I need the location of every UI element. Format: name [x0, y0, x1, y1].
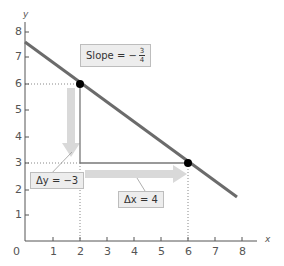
- y-tick-label: 1: [15, 208, 22, 221]
- y-tick-label: 3: [15, 156, 22, 169]
- slope-fraction: 34: [139, 47, 145, 64]
- x-tick-label: 7: [212, 245, 219, 258]
- x-tick-label: 3: [104, 245, 111, 258]
- origin-label: 0: [13, 245, 20, 258]
- x-tick-label: 2: [77, 245, 84, 258]
- x-tick-label: 6: [185, 245, 192, 258]
- y-axis-label: y: [23, 9, 28, 19]
- slope-annotation: Slope = −34: [80, 44, 151, 67]
- y-tick-label: 4: [15, 130, 22, 143]
- x-axis-label: x: [265, 234, 270, 244]
- x-tick-label: 8: [239, 245, 246, 258]
- x-tick-label: 1: [50, 245, 57, 258]
- delta-y-annotation: Δy = −3: [30, 172, 84, 189]
- x-tick-label: 5: [158, 245, 165, 258]
- x-ticks: [53, 237, 242, 241]
- point-2-6: [76, 80, 84, 88]
- delta-y-arrow: [62, 88, 80, 157]
- y-tick-label: 7: [15, 50, 22, 63]
- x-tick-label: 4: [131, 245, 138, 258]
- delta-x-leader: [137, 178, 145, 191]
- point-6-3: [184, 159, 192, 167]
- y-tick-label: 5: [15, 103, 22, 116]
- delta-x-arrow: [85, 165, 187, 183]
- y-tick-label: 6: [15, 77, 22, 90]
- slope-chart: [0, 0, 284, 266]
- slope-text: Slope = −: [86, 50, 137, 61]
- delta-x-annotation: Δx = 4: [118, 191, 164, 208]
- y-tick-label: 2: [15, 183, 22, 196]
- y-tick-label: 8: [15, 25, 22, 38]
- y-ticks: [25, 32, 29, 215]
